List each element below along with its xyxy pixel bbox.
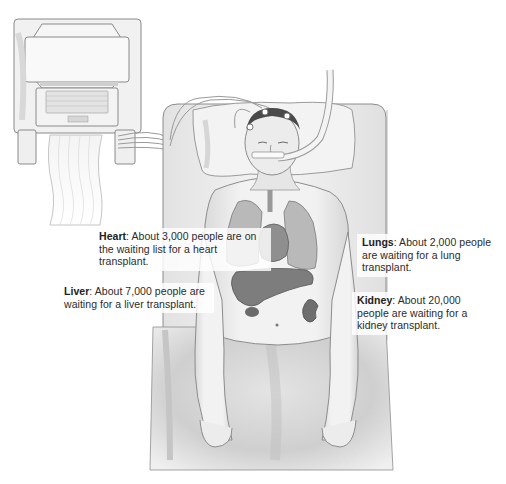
kidney-label: Kidney: About 20,000 people are waiting … bbox=[352, 292, 493, 335]
organ-transplant-diagram: Heart: About 3,000 people are on the wai… bbox=[0, 0, 506, 484]
lungs-organ-name: Lungs bbox=[362, 236, 394, 248]
kidney-organ-name: Kidney bbox=[357, 294, 392, 306]
liver-organ-name: Liver bbox=[64, 285, 89, 297]
printout-paper bbox=[48, 135, 102, 225]
heart-label: Heart: About 3,000 people are on the wai… bbox=[94, 228, 271, 271]
heart-organ-name: Heart bbox=[99, 230, 126, 242]
lungs-label: Lungs: About 2,000 people are waiting fo… bbox=[357, 234, 506, 277]
liver-label: Liver: About 7,000 people are waiting fo… bbox=[59, 283, 214, 313]
